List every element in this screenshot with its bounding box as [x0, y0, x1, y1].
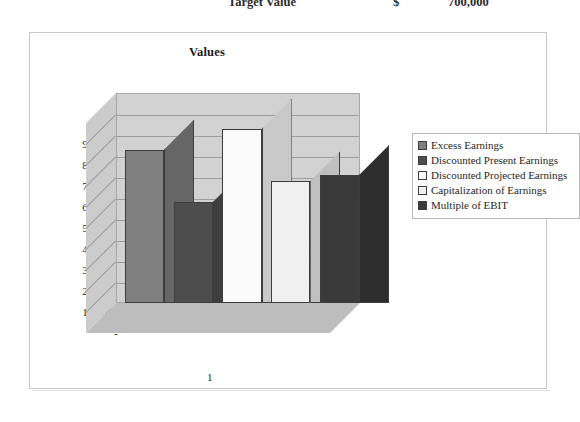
legend-swatch-icon: [418, 141, 427, 150]
legend-item[interactable]: Excess Earnings: [418, 138, 574, 153]
legend-item-label: Multiple of EBIT: [431, 198, 508, 213]
chart-title: Values: [30, 45, 384, 60]
legend-item-label: Capitalization of Earnings: [431, 183, 546, 198]
legend-item-label: Excess Earnings: [431, 138, 503, 153]
bar-side-face: [359, 145, 389, 303]
x-axis: 1: [58, 371, 384, 391]
x-axis-category-label: 1: [207, 371, 213, 383]
legend-item[interactable]: Discounted Present Earnings: [418, 153, 574, 168]
spreadsheet-top-row: Target Value $ 700,000: [0, 0, 580, 14]
legend-item[interactable]: Capitalization of Earnings: [418, 183, 574, 198]
legend-swatch-icon: [418, 186, 427, 195]
bar-front-face: [271, 181, 310, 303]
legend-swatch-icon: [418, 171, 427, 180]
legend-item-label: Discounted Present Earnings: [431, 153, 558, 168]
legend-item-label: Discounted Projected Earnings: [431, 168, 567, 183]
plot-area: [58, 85, 384, 365]
target-value-label: Target Value: [228, 0, 296, 10]
target-value-amount: 700,000: [448, 0, 489, 10]
bar-front-face: [174, 202, 213, 303]
bar[interactable]: [271, 181, 310, 333]
chart-legend[interactable]: Excess EarningsDiscounted Present Earnin…: [412, 133, 580, 219]
legend-item[interactable]: Discounted Projected Earnings: [418, 168, 574, 183]
legend-swatch-icon: [418, 156, 427, 165]
currency-symbol: $: [393, 0, 399, 10]
plot-left-wall: [86, 93, 116, 333]
bar-front-face: [222, 129, 261, 303]
bar-front-face: [125, 150, 164, 303]
bar-front-face: [320, 175, 359, 303]
bar[interactable]: [174, 202, 213, 333]
gridline: [117, 115, 359, 116]
chart-container[interactable]: Values -100,000200,000300,000400,000500,…: [29, 32, 547, 389]
bar[interactable]: [125, 150, 164, 333]
bar[interactable]: [320, 175, 359, 333]
bar[interactable]: [222, 129, 261, 333]
legend-item[interactable]: Multiple of EBIT: [418, 198, 574, 213]
legend-swatch-icon: [418, 201, 427, 210]
